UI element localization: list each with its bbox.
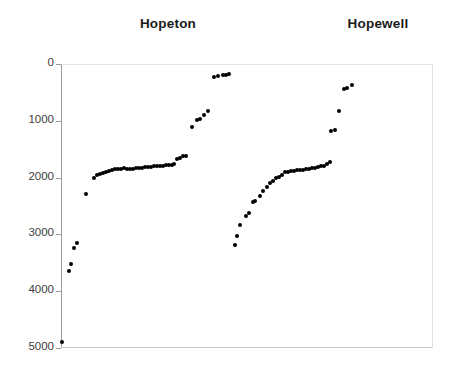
scatter-chart-figure: Hopeton Hopewell 010002000300040005000 [0, 0, 457, 368]
data-point-hopeton [172, 162, 176, 166]
plot-area [61, 64, 433, 348]
y-axis-tick-label: 1000 [8, 113, 54, 125]
chart-title-hopewell: Hopewell [318, 16, 438, 31]
data-point-hopewell [247, 211, 251, 215]
data-point-hopewell [258, 194, 262, 198]
y-axis-tick-label: 3000 [8, 226, 54, 238]
data-point-hopewell [253, 199, 257, 203]
data-point-hopewell [337, 109, 341, 113]
data-point-hopewell [328, 160, 332, 164]
data-point-hopeton [184, 154, 188, 158]
y-axis-tick-label: 4000 [8, 283, 54, 295]
data-point-hopeton [227, 72, 231, 76]
data-point-hopeton [60, 340, 64, 344]
y-axis-tick-label: 0 [8, 56, 54, 68]
data-point-hopeton [198, 117, 202, 121]
data-point-hopeton [69, 262, 73, 266]
data-point-hopewell [345, 86, 349, 90]
data-point-hopewell [350, 83, 354, 87]
data-point-hopeton [216, 74, 220, 78]
data-point-hopewell [238, 223, 242, 227]
data-point-hopewell [265, 185, 269, 189]
y-axis-tick-label: 2000 [8, 170, 54, 182]
data-point-hopeton [75, 241, 79, 245]
y-axis-tick-mark [56, 348, 61, 349]
data-point-hopewell [261, 189, 265, 193]
y-axis-tick-label: 5000 [8, 340, 54, 352]
data-point-hopewell [235, 234, 239, 238]
data-point-hopewell [233, 243, 237, 247]
chart-title-hopeton: Hopeton [108, 16, 228, 31]
data-point-hopeton [190, 125, 194, 129]
data-point-hopewell [333, 128, 337, 132]
data-point-hopeton [202, 113, 206, 117]
data-point-hopeton [84, 192, 88, 196]
data-point-hopeton [72, 246, 76, 250]
data-point-hopeton [67, 269, 71, 273]
data-point-hopeton [206, 109, 210, 113]
